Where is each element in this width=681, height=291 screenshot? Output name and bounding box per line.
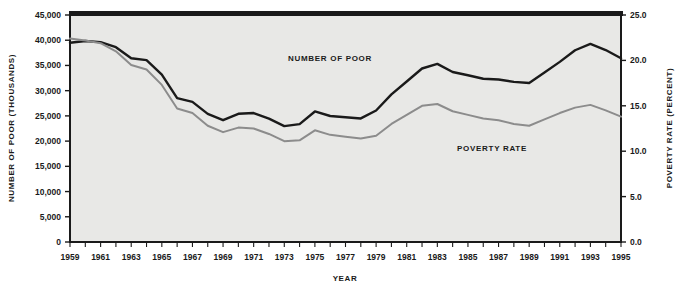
x-tick-label: 1973 — [275, 252, 294, 262]
left-axis-title: NUMBER OF POOR (THOUSANDS) — [7, 54, 16, 202]
right-tick-label: 10.0 — [630, 146, 647, 156]
right-tick-label: 15.0 — [630, 101, 647, 111]
series-annotation-number-of-poor: NUMBER OF POOR — [288, 54, 372, 63]
left-tick-label: 10,000 — [35, 187, 61, 197]
right-tick-label: 0.0 — [630, 237, 642, 247]
x-tick-label: 1975 — [305, 252, 324, 262]
right-tick-label: 5.0 — [630, 192, 642, 202]
x-tick-label: 1971 — [244, 252, 263, 262]
x-tick-label: 1965 — [152, 252, 171, 262]
left-tick-label: 0 — [56, 237, 61, 247]
x-tick-label: 1985 — [458, 252, 477, 262]
x-tick-label: 1963 — [122, 252, 141, 262]
left-tick-label: 45,000 — [35, 10, 61, 20]
plot-area-background — [70, 15, 621, 242]
left-tick-label: 20,000 — [35, 136, 61, 146]
x-tick-label: 1959 — [61, 252, 80, 262]
axis-top-bar — [69, 11, 623, 16]
left-tick-label: 40,000 — [35, 35, 61, 45]
x-tick-label: 1995 — [612, 252, 631, 262]
left-tick-label: 30,000 — [35, 86, 61, 96]
right-axis-title: POVERTY RATE (PERCENT) — [665, 68, 674, 188]
series-annotation-poverty-rate: POVERTY RATE — [457, 144, 527, 153]
poverty-chart: 05,00010,00015,00020,00025,00030,00035,0… — [0, 0, 681, 291]
right-tick-label: 25.0 — [630, 10, 647, 20]
x-tick-label: 1977 — [336, 252, 355, 262]
x-tick-label: 1987 — [489, 252, 508, 262]
left-tick-label: 15,000 — [35, 161, 61, 171]
x-tick-label: 1969 — [214, 252, 233, 262]
x-tick-label: 1983 — [428, 252, 447, 262]
left-tick-label: 25,000 — [35, 111, 61, 121]
x-tick-label: 1989 — [520, 252, 539, 262]
right-tick-label: 20.0 — [630, 55, 647, 65]
x-tick-label: 1979 — [367, 252, 386, 262]
x-tick-label: 1991 — [550, 252, 569, 262]
x-tick-label: 1993 — [581, 252, 600, 262]
x-tick-label: 1961 — [91, 252, 110, 262]
left-tick-label: 5,000 — [40, 212, 62, 222]
x-tick-label: 1967 — [183, 252, 202, 262]
left-tick-label: 35,000 — [35, 60, 61, 70]
bottom-axis-title: YEAR — [333, 274, 358, 283]
x-tick-label: 1981 — [397, 252, 416, 262]
